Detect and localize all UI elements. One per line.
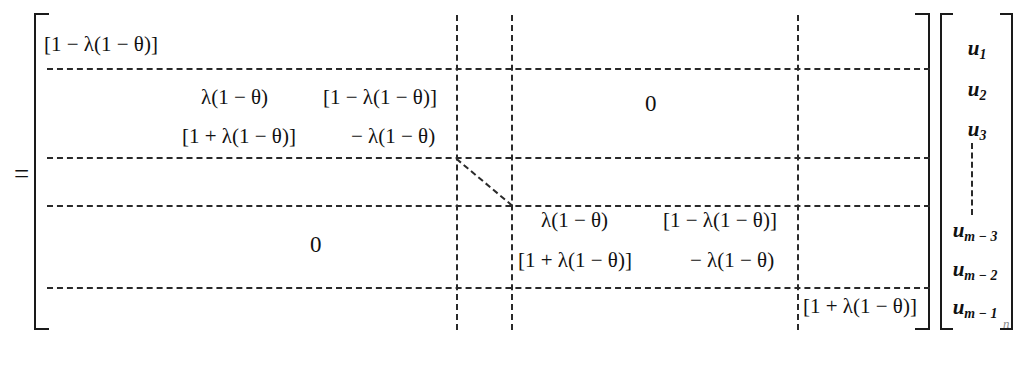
vector-vertical-ellipsis [971,143,973,215]
vector-entry-1: u1 [953,38,1001,62]
vector-trailing-subscript: n [1003,316,1010,332]
vector-symbol: u [953,257,965,281]
vector-symbol: u [953,218,965,242]
vector-subscript: 1 [979,47,986,62]
vector-subscript: 3 [979,128,986,143]
diagonal-continuation-line [456,158,513,206]
vector-subscript: m − 1 [964,306,997,321]
matrix-entry-top-left: [1 − λ(1 − θ)] [44,34,158,55]
vector-subscript: m − 3 [964,229,997,244]
vector-symbol: u [953,295,965,319]
equation-figure: = [1 − λ(1 − θ)] λ(1 − θ) [1 − λ(1 − θ)]… [0,0,1023,373]
matrix-entry-lower-r2c1: [1 + λ(1 − θ)] [518,250,632,271]
matrix-close-bracket [915,13,930,330]
matrix-entry-upper-r2c1: [1 + λ(1 − θ)] [182,126,296,147]
matrix-entry-lower-r1c1: λ(1 − θ) [541,210,608,231]
matrix-entry-bottom-right: [1 + λ(1 − θ)] [803,296,917,317]
partition-line-v-3 [797,15,799,330]
vector-entry-m-1: um − 1 [941,297,1009,321]
partition-line-v-2 [511,15,513,330]
matrix-zero-lower-left: 0 [310,233,322,256]
vector-entry-m-3: um − 3 [941,220,1009,244]
vector-entry-m-2: um − 2 [941,259,1009,283]
matrix-entry-lower-r2c2: − λ(1 − θ) [690,250,774,271]
matrix-entry-upper-r1c2: [1 − λ(1 − θ)] [323,87,437,108]
vector-entry-2: u2 [953,79,1001,103]
vector-symbol: u [968,36,980,60]
vector-entry-3: u3 [953,119,1001,143]
matrix-entry-upper-r1c1: λ(1 − θ) [201,87,268,108]
vector-symbol: u [968,77,980,101]
matrix-zero-upper-right: 0 [645,92,657,115]
vector-subscript: 2 [979,88,986,103]
matrix-entry-lower-r1c2: [1 − λ(1 − θ)] [663,210,777,231]
equals-sign: = [14,161,29,188]
vector-symbol: u [968,117,980,141]
matrix-entry-upper-r2c2: − λ(1 − θ) [351,126,435,147]
matrix-open-bracket [34,13,49,330]
vector-subscript: m − 2 [964,268,997,283]
partition-line-v-1 [456,15,458,330]
